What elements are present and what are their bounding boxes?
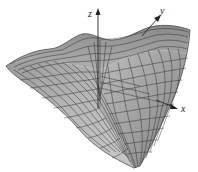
x-axis-label: x — [180, 103, 186, 114]
z-axis-arrowhead-icon — [96, 8, 101, 15]
surface-plot: z y x — [0, 0, 198, 172]
z-axis-label: z — [87, 8, 92, 19]
y-axis-label: y — [159, 5, 165, 16]
x-axis-arrowhead-icon — [170, 104, 178, 109]
